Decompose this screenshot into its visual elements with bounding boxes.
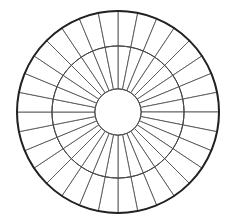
center-hub[interactable] — [95, 89, 141, 135]
radial-wheel-diagram — [0, 0, 234, 224]
